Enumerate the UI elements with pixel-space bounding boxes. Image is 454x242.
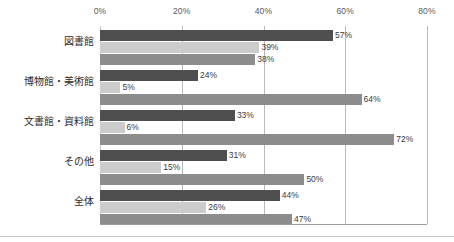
bar-value-label: 24% (198, 70, 217, 81)
x-tick-label: 0% (94, 6, 107, 16)
bar (100, 202, 206, 213)
bar-group: その他31%15%50% (100, 150, 427, 186)
bar-group: 図書館57%39%38% (100, 30, 427, 66)
bar-value-label: 5% (120, 82, 134, 93)
x-axis-tick-labels: 0%20%40%60%80% (0, 6, 454, 22)
x-tick-label: 80% (418, 6, 436, 16)
category-label: 全体 (2, 196, 94, 208)
bar (100, 30, 333, 41)
bar-value-label: 39% (259, 42, 278, 53)
chart-bottom-border (0, 236, 454, 237)
category-label: 博物館・美術館 (2, 76, 94, 88)
bar-value-label: 38% (255, 54, 274, 65)
bar-value-label: 26% (206, 202, 225, 213)
bar-value-label: 57% (333, 30, 352, 41)
bar-group: 文書館・資料館33%6%72% (100, 110, 427, 146)
bar-value-label: 15% (161, 162, 180, 173)
bar (100, 190, 280, 201)
bar-value-label: 6% (125, 122, 139, 133)
bar (100, 162, 161, 173)
plot-area: 図書館57%39%38%博物館・美術館24%5%64%文書館・資料館33%6%7… (100, 26, 427, 224)
category-label: 文書館・資料館 (2, 116, 94, 128)
bar-row: 44% (100, 190, 427, 201)
bar (100, 54, 255, 65)
x-tick-label: 20% (173, 6, 191, 16)
bar-group: 全体44%26%47% (100, 190, 427, 226)
bar-row: 50% (100, 174, 427, 185)
bar-value-label: 44% (280, 190, 299, 201)
bar (100, 110, 235, 121)
x-axis-line (100, 224, 427, 225)
bar-value-label: 33% (235, 110, 254, 121)
bar (100, 134, 394, 145)
bar (100, 94, 362, 105)
bar-chart: 0%20%40%60%80% 図書館57%39%38%博物館・美術館24%5%6… (0, 0, 454, 242)
bar-row: 6% (100, 122, 427, 133)
gridline (427, 26, 428, 224)
bar (100, 122, 125, 133)
bar-row: 72% (100, 134, 427, 145)
bar-row: 57% (100, 30, 427, 41)
bar (100, 70, 198, 81)
bar-row: 64% (100, 94, 427, 105)
bar-value-label: 31% (227, 150, 246, 161)
bar-group: 博物館・美術館24%5%64% (100, 70, 427, 106)
bar-row: 26% (100, 202, 427, 213)
bar-row: 39% (100, 42, 427, 53)
bar (100, 42, 259, 53)
bar-row: 31% (100, 150, 427, 161)
category-label: 図書館 (2, 36, 94, 48)
bar-row: 33% (100, 110, 427, 121)
bar-row: 38% (100, 54, 427, 65)
bar-row: 15% (100, 162, 427, 173)
bar-row: 24% (100, 70, 427, 81)
bar-value-label: 72% (394, 134, 413, 145)
bar-value-label: 50% (304, 174, 323, 185)
bar-row: 5% (100, 82, 427, 93)
x-tick-label: 60% (336, 6, 354, 16)
x-tick-label: 40% (255, 6, 273, 16)
bar-value-label: 64% (362, 94, 381, 105)
bar (100, 150, 227, 161)
category-label: その他 (2, 156, 94, 168)
bar (100, 174, 304, 185)
bar (100, 82, 120, 93)
